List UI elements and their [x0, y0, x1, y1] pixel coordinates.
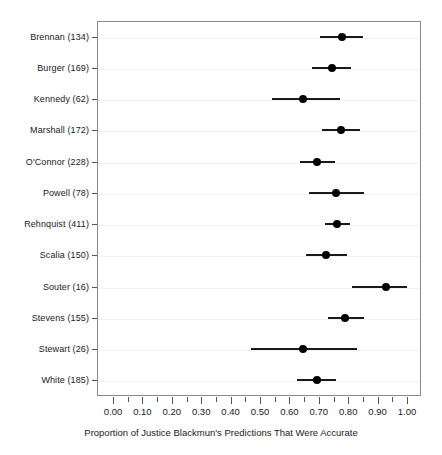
category-label: Stevens (155) [0, 313, 89, 323]
gridline [98, 288, 420, 289]
x-tick-major [172, 397, 173, 404]
category-tick [92, 162, 97, 163]
category-tick [92, 224, 97, 225]
x-tick-major [260, 397, 261, 404]
x-tick-major [142, 397, 143, 404]
x-tick-minor [157, 397, 158, 402]
x-tick-label: 1.00 [387, 406, 427, 417]
gridline [98, 256, 420, 257]
x-tick-minor [392, 397, 393, 402]
x-tick-major [348, 397, 349, 404]
category-tick [92, 349, 97, 350]
x-tick-major [378, 397, 379, 404]
gridline [98, 100, 420, 101]
plot-area [97, 21, 421, 396]
category-label: Powell (78) [0, 188, 89, 198]
x-tick-minor [216, 397, 217, 402]
category-tick [92, 99, 97, 100]
category-tick [92, 37, 97, 38]
point-estimate-dot [337, 126, 345, 134]
category-tick [92, 318, 97, 319]
gridline [98, 319, 420, 320]
category-tick [92, 255, 97, 256]
gridline [98, 163, 420, 164]
point-estimate-dot [333, 220, 341, 228]
x-tick-major [319, 397, 320, 404]
gridline [98, 38, 420, 39]
category-label: O'Connor (228) [0, 157, 89, 167]
category-label: Stewart (26) [0, 344, 89, 354]
category-label: Rehnquist (411) [0, 219, 89, 229]
forest-plot-chart: Brennan (134)Burger (169)Kennedy (62)Mar… [0, 0, 442, 455]
category-tick [92, 130, 97, 131]
category-label: Souter (16) [0, 282, 89, 292]
x-tick-minor [128, 397, 129, 402]
x-tick-minor [363, 397, 364, 402]
x-tick-major [113, 397, 114, 404]
x-axis-title: Proportion of Justice Blackmun's Predict… [0, 427, 442, 438]
gridline [98, 225, 420, 226]
category-label: White (185) [0, 375, 89, 385]
gridline [98, 381, 420, 382]
x-tick-minor [245, 397, 246, 402]
gridline [98, 350, 420, 351]
gridline [98, 131, 420, 132]
confidence-interval-line [352, 286, 407, 288]
x-tick-minor [334, 397, 335, 402]
x-tick-minor [187, 397, 188, 402]
x-tick-major [289, 397, 290, 404]
gridline [98, 69, 420, 70]
category-label: Kennedy (62) [0, 94, 89, 104]
x-tick-major [231, 397, 232, 404]
category-label: Brennan (134) [0, 32, 89, 42]
category-tick [92, 287, 97, 288]
point-estimate-dot [299, 95, 307, 103]
x-tick-major [201, 397, 202, 404]
category-label: Scalia (150) [0, 250, 89, 260]
point-estimate-dot [299, 345, 307, 353]
category-label: Marshall (172) [0, 125, 89, 135]
category-tick [92, 68, 97, 69]
category-label: Burger (169) [0, 63, 89, 73]
x-tick-minor [275, 397, 276, 402]
x-tick-major [407, 397, 408, 404]
x-tick-minor [304, 397, 305, 402]
category-tick [92, 380, 97, 381]
point-estimate-dot [328, 64, 336, 72]
category-tick [92, 193, 97, 194]
gridline [98, 194, 420, 195]
